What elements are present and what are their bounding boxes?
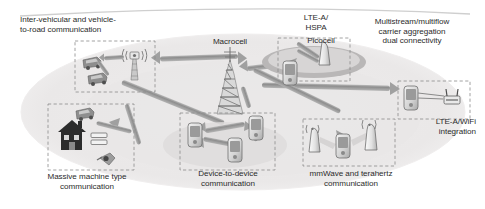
phone-icon <box>249 116 263 140</box>
phone-icon <box>336 134 350 158</box>
phone-icon <box>283 61 297 85</box>
network-diagram <box>0 0 485 209</box>
phone-icon <box>228 138 242 162</box>
diagram-canvas: Inter-vehicular and vehicle- to-road com… <box>0 0 485 209</box>
phone-icon <box>404 86 418 110</box>
phone-icon <box>188 123 202 147</box>
